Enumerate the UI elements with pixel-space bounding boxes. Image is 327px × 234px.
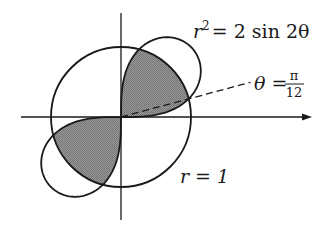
lemniscate-label: r2= 2 sin 2θ [193, 19, 309, 42]
angle-label-lhs: θ = [254, 72, 287, 94]
angle-label-denominator: 12 [286, 85, 303, 100]
angle-label-numerator: π [290, 68, 299, 83]
circle-label: r = 1 [180, 165, 229, 187]
polar-diagram: r2= 2 sin 2θ θ = π 12 r = 1 [0, 0, 327, 234]
x-axis-arrowhead-icon [302, 114, 312, 121]
